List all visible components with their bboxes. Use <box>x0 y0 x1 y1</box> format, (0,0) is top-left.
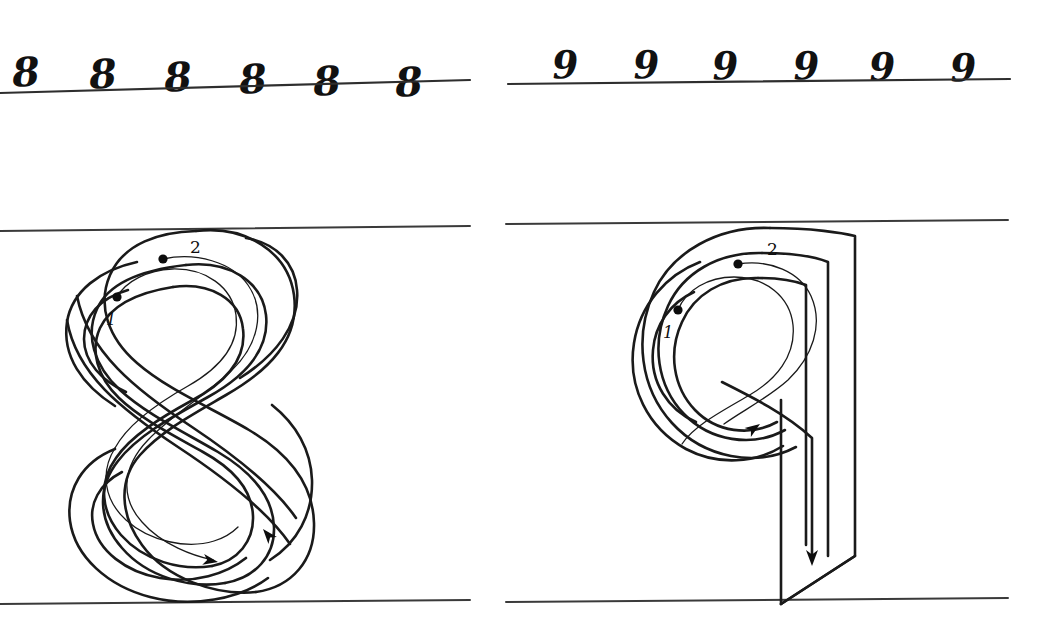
practice-digit-9-1: 9 <box>551 45 579 84</box>
practice-digit-9-2: 9 <box>632 45 660 84</box>
stroke-order-label-1-eight: 1 <box>106 312 116 328</box>
nine-outline-outer <box>642 228 855 604</box>
practice-digit-8-6: 8 <box>394 61 425 103</box>
practice-digit-8-4: 8 <box>238 58 269 100</box>
practice-digit-8-1: 8 <box>11 51 42 93</box>
stroke-start-dot-1-nine <box>673 305 682 314</box>
eight-outline-inner <box>92 264 274 584</box>
nine-left-sweep <box>633 262 783 460</box>
direction-arrow-eight-outline <box>259 525 277 544</box>
diagram-bottom-rule-nine <box>506 598 1008 602</box>
practice-digit-9-4: 9 <box>792 46 820 85</box>
direction-arrow-eight-guide <box>202 554 219 567</box>
nine-outline-second-pass <box>674 278 806 545</box>
eight-outline-outer <box>105 230 314 592</box>
practice-digit-9-6: 9 <box>949 48 977 87</box>
practice-digit-8-3: 8 <box>163 56 194 98</box>
worksheet-sheet: 888888 999999 <box>0 0 1042 639</box>
practice-row-nines: 999999 <box>500 0 1042 110</box>
direction-arrow-nine-loop <box>745 419 764 437</box>
diagram-top-rule-eight <box>0 226 470 231</box>
stroke-order-label-2-nine: 2 <box>767 241 778 258</box>
practice-digit-9-3: 9 <box>711 46 739 85</box>
stroke-start-dot-2-nine <box>733 259 742 268</box>
nine-guide-path <box>678 263 816 444</box>
direction-arrow-nine-descender <box>806 550 818 566</box>
eight-crossing-strokes <box>67 296 296 544</box>
stroke-order-label-2-eight: 2 <box>190 239 201 256</box>
stroke-start-dot-1-eight <box>112 292 121 301</box>
nine-descender-strokes <box>722 382 855 604</box>
eight-left-sweep <box>66 262 268 602</box>
practice-digit-9-5: 9 <box>868 47 896 86</box>
stroke-order-label-1-nine: 1 <box>663 325 673 341</box>
nine-outline-inner <box>658 253 828 556</box>
diagram-bottom-rule-eight <box>0 600 470 604</box>
practice-row-eights: 888888 <box>0 0 500 110</box>
diagram-top-rule-nine <box>506 220 1008 224</box>
practice-digit-8-5: 8 <box>312 60 343 102</box>
eight-guide-path <box>106 257 258 560</box>
eight-right-sweep <box>240 238 312 560</box>
stroke-start-dot-2-eight <box>158 254 167 263</box>
eight-outline-second-pass <box>96 286 254 567</box>
practice-digit-8-2: 8 <box>88 53 119 95</box>
